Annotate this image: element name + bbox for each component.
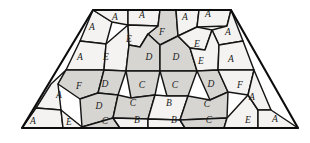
tiling-figure: AAAFAAAAEEDDEEAAFDCCDFDCBCAECBBCEAA bbox=[0, 0, 310, 143]
tiling-canvas: AAAFAAAAEEDDEEAAFDCCDFDCBCAECBBCEAA bbox=[0, 0, 310, 143]
tile-c-t20[interactable] bbox=[160, 71, 197, 96]
tile-a-t06[interactable] bbox=[197, 10, 231, 27]
tile-a-t16[interactable] bbox=[36, 70, 66, 110]
tile-b-t30[interactable] bbox=[113, 118, 148, 128]
tiles-group bbox=[22, 10, 298, 128]
tile-a-t03[interactable] bbox=[128, 10, 160, 26]
tile-c-t26[interactable] bbox=[180, 92, 228, 120]
tile-c-t19[interactable] bbox=[126, 71, 160, 98]
tile-c-t32[interactable] bbox=[180, 118, 227, 128]
tile-e-t28[interactable] bbox=[61, 110, 82, 128]
tile-a-t15[interactable] bbox=[218, 41, 254, 70]
